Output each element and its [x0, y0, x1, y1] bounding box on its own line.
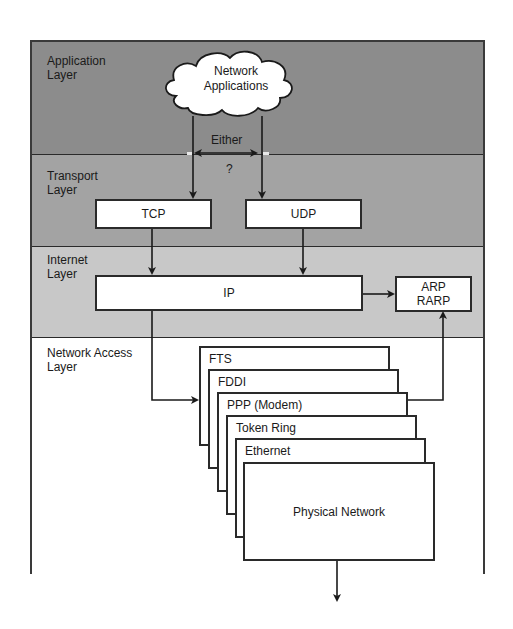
fddi-label: FDDI: [218, 375, 246, 389]
fts-label: FTS: [209, 352, 232, 366]
network-applications-label: Network Applications: [196, 64, 276, 94]
either-label: Either: [211, 133, 242, 147]
tcp-box: TCP: [95, 199, 212, 229]
stack-to-arp-arrow: [406, 313, 443, 400]
token-ring-label: Token Ring: [236, 421, 296, 435]
ip-to-stack-arrow: [152, 311, 197, 400]
arp-rarp-box: ARP RARP: [395, 276, 472, 312]
udp-box: UDP: [245, 199, 362, 229]
ppp-label: PPP (Modem): [227, 398, 302, 412]
question-mark-label: ?: [226, 162, 233, 176]
physical-network-box: Physical Network: [243, 462, 435, 561]
ip-box: IP: [95, 275, 363, 311]
ethernet-label: Ethernet: [245, 444, 290, 458]
